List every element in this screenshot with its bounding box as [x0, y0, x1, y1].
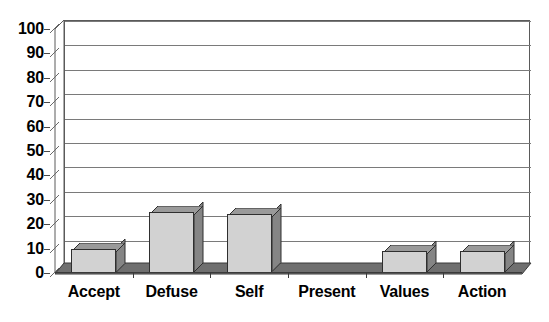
y-tick-label: 70 — [2, 94, 44, 110]
y-tick-connector — [50, 215, 59, 224]
x-tick-mark — [288, 272, 289, 278]
bar-action — [460, 242, 505, 273]
bars-layer — [55, 20, 532, 273]
y-tick-connector — [50, 118, 59, 127]
y-tick-connector — [50, 240, 59, 249]
x-tick-mark — [133, 272, 134, 278]
x-tick-label-accept: Accept — [68, 283, 120, 301]
y-tick-label: 20 — [2, 216, 44, 232]
bar-front-face — [382, 251, 427, 273]
y-tick-connector — [50, 93, 59, 102]
y-tick-label: 80 — [2, 70, 44, 86]
bar-top-face — [227, 204, 282, 214]
y-tick-connector — [50, 44, 59, 53]
bar-front-face — [71, 249, 116, 273]
bar-front-face — [460, 251, 505, 273]
y-tick-label: 90 — [2, 45, 44, 61]
y-tick-connector — [50, 264, 59, 273]
x-tick-label-self: Self — [235, 283, 264, 301]
bar-top-face — [149, 202, 204, 212]
bar-self — [227, 205, 272, 273]
x-axis-labels: AcceptDefuseSelfPresentValuesAction — [55, 283, 532, 313]
y-tick-label: 50 — [2, 143, 44, 159]
bar-accept — [71, 240, 116, 273]
y-tick-label: 0 — [2, 265, 44, 281]
x-tick-mark — [366, 272, 367, 278]
y-axis: 0102030405060708090100 — [0, 0, 44, 280]
y-tick-label: 10 — [2, 241, 44, 257]
y-tick-connector — [50, 69, 59, 78]
x-tick-label-present: Present — [298, 283, 355, 301]
x-tick-mark — [210, 272, 211, 278]
bar-front-face — [227, 214, 272, 273]
bar-defuse — [149, 203, 194, 273]
y-tick-connector — [50, 166, 59, 175]
bar-top-face — [382, 241, 437, 251]
x-tick-label-action: Action — [458, 283, 507, 301]
bar-chart: 0102030405060708090100 AcceptDefuseSelfP… — [0, 0, 549, 322]
y-tick-connector — [50, 20, 59, 29]
bar-front-face — [149, 212, 194, 273]
y-tick-label: 100 — [2, 21, 44, 37]
x-tick-label-values: Values — [380, 283, 430, 301]
bar-top-face — [460, 241, 515, 251]
y-tick-label: 40 — [2, 167, 44, 183]
bar-values — [382, 242, 427, 273]
y-tick-connector — [50, 142, 59, 151]
y-tick-connector — [50, 191, 59, 200]
y-tick-label: 30 — [2, 192, 44, 208]
x-tick-mark — [443, 272, 444, 278]
plot-area — [55, 20, 532, 272]
y-tick-label: 60 — [2, 119, 44, 135]
bar-top-face — [71, 239, 126, 249]
x-tick-label-defuse: Defuse — [145, 283, 197, 301]
